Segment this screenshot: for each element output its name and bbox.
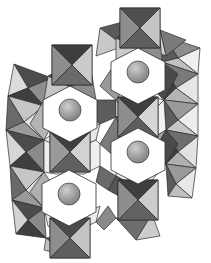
oct-lower-mid <box>118 180 158 220</box>
crystal-structure-figure <box>0 0 211 263</box>
oct-edge-right-e <box>166 164 196 198</box>
oct-top-cap <box>120 8 160 48</box>
cation-lower-right <box>127 141 149 163</box>
cation-upper-right <box>127 61 149 83</box>
structure-canvas <box>0 0 211 263</box>
cation-upper-left <box>59 99 81 121</box>
oct-upper-mid <box>52 45 92 85</box>
cation-lower-left <box>58 183 80 205</box>
